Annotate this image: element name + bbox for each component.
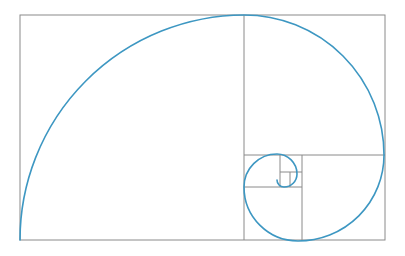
- fibonacci-spiral-figure: [0, 0, 405, 256]
- figure-background: [0, 0, 405, 256]
- spiral-canvas: [0, 0, 405, 256]
